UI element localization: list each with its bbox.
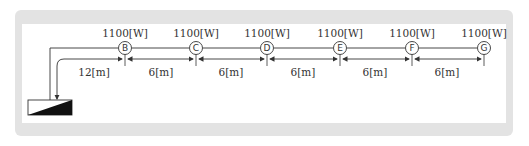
dimension-12m (57, 59, 122, 99)
node-D: D 1100[W] (244, 27, 290, 55)
load-label: 1100[W] (244, 27, 290, 39)
node-G: G 1100[W] (461, 27, 507, 55)
dimension-lines (125, 54, 484, 66)
node-label: D (264, 43, 271, 53)
load-label: 1100[W] (317, 27, 363, 39)
wiring-diagram: B 1100[W] C 1100[W] D 1100[W] E 1100[W] … (0, 0, 529, 146)
load-label: 1100[W] (173, 27, 219, 39)
span-length-label: 6[m] (149, 66, 174, 78)
node-label: C (193, 43, 199, 53)
node-label: E (337, 43, 343, 53)
load-label: 1100[W] (389, 27, 435, 39)
span-length-label: 6[m] (363, 66, 388, 78)
node-F: F 1100[W] (389, 27, 435, 55)
node-C: C 1100[W] (173, 27, 219, 55)
span-length-label: 12[m] (78, 66, 110, 78)
distribution-panel (28, 100, 72, 115)
node-label: F (409, 43, 414, 53)
load-label: 1100[W] (102, 27, 148, 39)
span-length-label: 6[m] (435, 66, 460, 78)
span-length-label: 6[m] (291, 66, 316, 78)
node-label: G (481, 43, 488, 53)
span-length-label: 6[m] (219, 66, 244, 78)
feeder-line (50, 48, 477, 100)
load-label: 1100[W] (461, 27, 507, 39)
node-label: B (122, 43, 128, 53)
node-E: E 1100[W] (317, 27, 363, 55)
node-B: B 1100[W] (102, 27, 148, 55)
